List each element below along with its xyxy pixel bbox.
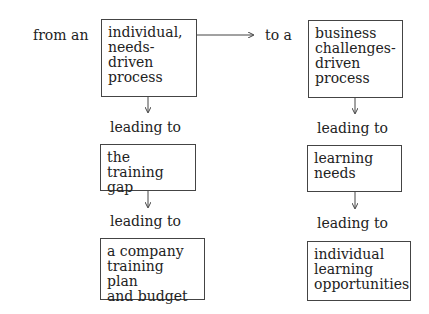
box-business-challenges-process: business challenges- driven process	[308, 20, 403, 98]
box-needs-driven-process: individual, needs- driven process	[101, 19, 197, 97]
box-text: individual, needs- driven process	[108, 25, 190, 85]
box-training-gap: the training gap	[100, 144, 196, 191]
box-individual-learning-opportunities: individual learning opportunities	[307, 241, 411, 301]
box-text: business challenges- driven process	[315, 26, 396, 86]
leading-to-label: leading to	[110, 119, 181, 135]
leading-to-label: leading to	[317, 215, 388, 231]
box-text: the training gap	[107, 150, 189, 195]
box-learning-needs: learning needs	[307, 145, 402, 192]
from-label: from an	[33, 27, 88, 43]
box-text: a company training plan and budget	[107, 244, 198, 304]
to-label: to a	[265, 27, 292, 43]
box-text: learning needs	[314, 151, 395, 181]
leading-to-label: leading to	[317, 120, 388, 136]
leading-to-label: leading to	[110, 213, 181, 229]
box-text: individual learning opportunities	[314, 247, 404, 292]
box-company-training-plan: a company training plan and budget	[100, 238, 205, 300]
